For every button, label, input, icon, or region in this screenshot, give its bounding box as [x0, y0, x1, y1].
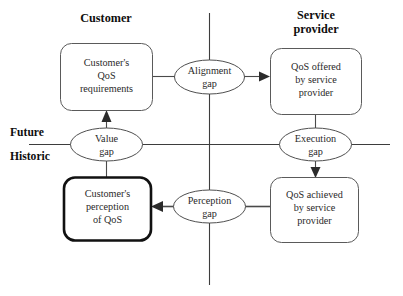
gap-text-perception-line2: gap — [202, 208, 217, 219]
diagram-canvas: Customer Service provider Future Histori… — [0, 0, 403, 296]
node-text-offered-line2: by service — [295, 74, 337, 85]
gap-value-gap[interactable]: Value gap — [71, 128, 143, 161]
qos-gaps-diagram: Customer Service provider Future Histori… — [0, 0, 403, 296]
node-qos-offered-by-service-provider[interactable]: QoS offered by service provider — [271, 49, 362, 115]
gap-text-value-line1: Value — [95, 133, 119, 144]
heading-service-provider-line1: Service — [297, 8, 335, 22]
node-text-requirements-line1: Customer's — [84, 57, 129, 68]
arrow-head-perception-to-customer — [151, 201, 163, 212]
heading-customer: Customer — [80, 11, 132, 25]
arrow-head-alignment-to-offered — [259, 72, 270, 82]
gap-alignment-gap[interactable]: Alignment gap — [175, 60, 245, 94]
node-text-requirements-line2: QoS — [97, 70, 115, 81]
node-text-perception-line2: perception — [86, 201, 129, 212]
node-text-achieved-line2: by service — [294, 202, 336, 213]
gap-text-value-line2: gap — [99, 146, 114, 157]
gap-text-alignment-line2: gap — [202, 78, 217, 89]
axis-label-historic: Historic — [10, 150, 50, 163]
heading-service-provider-line2: provider — [293, 22, 339, 36]
gap-execution-gap[interactable]: Execution gap — [280, 128, 352, 161]
node-text-achieved-line3: provider — [297, 215, 332, 226]
gap-text-perception-line1: Perception — [188, 195, 232, 206]
node-text-perception-line3: of QoS — [93, 214, 122, 225]
node-customer-qos-requirements[interactable]: Customer's QoS requirements — [61, 44, 153, 111]
node-text-achieved-line1: QoS achieved — [286, 189, 343, 200]
node-text-offered-line1: QoS offered — [291, 61, 341, 72]
gap-text-execution-line2: gap — [308, 146, 323, 157]
gap-text-alignment-line1: Alignment — [188, 65, 232, 76]
gap-text-execution-line1: Execution — [295, 133, 336, 144]
axis-label-future: Future — [10, 126, 44, 139]
node-text-requirements-line3: requirements — [80, 83, 133, 94]
node-text-perception-line1: Customer's — [85, 188, 130, 199]
arrow-head-execution-to-achieved — [311, 167, 321, 178]
node-text-offered-line3: provider — [299, 87, 334, 98]
node-qos-achieved-by-service-provider[interactable]: QoS achieved by service provider — [271, 178, 359, 243]
gap-perception-gap[interactable]: Perception gap — [174, 190, 246, 223]
arrow-head-value-to-requirements — [102, 110, 112, 122]
node-customer-perception-of-qos[interactable]: Customer's perception of QoS — [64, 178, 151, 241]
